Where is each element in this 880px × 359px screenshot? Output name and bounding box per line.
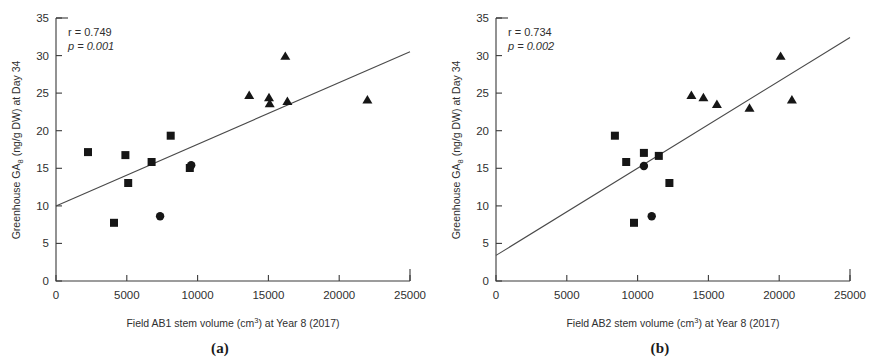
data-points-circle <box>640 162 656 221</box>
x-tick-label: 15000 <box>252 289 284 301</box>
y-tick-label: 30 <box>476 50 489 62</box>
panel-a-y-ticks <box>56 18 62 281</box>
p-value: p = 0.001 <box>67 40 114 52</box>
panel-a-y-tick-labels: 0 5 10 15 20 25 30 35 <box>36 12 49 287</box>
axis-lines <box>496 18 850 281</box>
svg-text:Field AB2 stem volume (cm3) at: Field AB2 stem volume (cm3) at Year 8 (2… <box>566 316 779 329</box>
panel-b-caption: (b) <box>440 340 880 357</box>
panel-a-plot: 0 5 10 15 20 25 30 35 0 5000 10000 15000… <box>0 0 440 359</box>
correlation-value: r = 0.749 <box>68 26 112 38</box>
panel-b-axes <box>496 18 850 281</box>
y-tick-label: 5 <box>483 237 489 249</box>
y-axis-title-suffix: (ng/g DW) at Day 34 <box>450 61 462 160</box>
y-tick-label: 10 <box>36 200 49 212</box>
x-tick-label: 0 <box>53 289 59 301</box>
panel-b-y-ticks <box>496 18 502 281</box>
x-axis-title-prefix: Field AB1 stem volume (cm <box>126 317 254 329</box>
panel-b-x-axis-title: Field AB2 stem volume (cm3) at Year 8 (2… <box>566 316 779 329</box>
y-tick-label: 35 <box>476 12 489 24</box>
panel-b-plot: 0 5 10 15 20 25 30 35 0 5000 10000 15000… <box>440 0 880 359</box>
x-axis-title-prefix: Field AB2 stem volume (cm <box>566 317 694 329</box>
x-tick-label: 20000 <box>323 289 355 301</box>
panel-a-x-axis-title: Field AB1 stem volume (cm3) at Year 8 (2… <box>126 316 339 329</box>
panel-b-x-ticks <box>496 275 850 281</box>
panel-a-y-axis-title: Greenhouse GA8 (ng/g DW) at Day 34 <box>10 61 25 240</box>
p-value: p = 0.002 <box>507 40 554 52</box>
panel-b: 0 5 10 15 20 25 30 35 0 5000 10000 15000… <box>440 0 880 359</box>
y-tick-label: 0 <box>43 275 49 287</box>
scatter-figure: 0 5 10 15 20 25 30 35 0 5000 10000 15000… <box>0 0 880 359</box>
y-tick-label: 15 <box>476 162 489 174</box>
y-axis-title-prefix: Greenhouse GA <box>10 163 22 239</box>
panel-b-y-axis-title: Greenhouse GA8 (ng/g DW) at Day 34 <box>450 61 465 240</box>
x-tick-label: 10000 <box>622 289 654 301</box>
x-axis-title-suffix: ) at Year 8 (2017) <box>258 317 339 329</box>
y-axis-title-prefix: Greenhouse GA <box>450 163 462 239</box>
y-axis-title-suffix: (ng/g DW) at Day 34 <box>10 61 22 160</box>
y-tick-label: 10 <box>476 200 489 212</box>
panel-b-stats: r = 0.734 p = 0.002 <box>507 26 554 52</box>
y-tick-label: 5 <box>43 237 49 249</box>
x-tick-label: 25000 <box>394 289 426 301</box>
panel-a-x-ticks <box>56 275 410 281</box>
x-tick-label: 5000 <box>554 289 580 301</box>
panel-b-x-tick-labels: 0 5000 10000 15000 20000 25000 <box>493 289 866 301</box>
panel-a: 0 5 10 15 20 25 30 35 0 5000 10000 15000… <box>0 0 440 359</box>
x-tick-label: 25000 <box>834 289 866 301</box>
regression-line <box>56 52 410 206</box>
regression-line <box>496 38 850 256</box>
y-tick-label: 20 <box>476 125 489 137</box>
x-tick-label: 10000 <box>182 289 214 301</box>
svg-text:Greenhouse GA8 (ng/g DW) at Da: Greenhouse GA8 (ng/g DW) at Day 34 <box>450 61 465 240</box>
x-axis-title-suffix: ) at Year 8 (2017) <box>698 317 779 329</box>
panel-b-y-tick-labels: 0 5 10 15 20 25 30 35 <box>476 12 489 287</box>
correlation-value: r = 0.734 <box>508 26 552 38</box>
data-points-triangle <box>244 51 372 107</box>
panel-a-x-tick-labels: 0 5000 10000 15000 20000 25000 <box>53 289 426 301</box>
y-tick-label: 30 <box>36 50 49 62</box>
svg-text:Field AB1 stem volume (cm3) at: Field AB1 stem volume (cm3) at Year 8 (2… <box>126 316 339 329</box>
panel-a-axes <box>56 18 410 281</box>
y-tick-label: 0 <box>483 275 489 287</box>
y-tick-label: 25 <box>476 87 489 99</box>
x-tick-label: 15000 <box>692 289 724 301</box>
x-tick-label: 0 <box>493 289 499 301</box>
axis-lines <box>56 18 410 281</box>
x-tick-label: 5000 <box>114 289 140 301</box>
y-tick-label: 15 <box>36 162 49 174</box>
y-tick-label: 20 <box>36 125 49 137</box>
data-points-triangle <box>686 51 797 111</box>
x-tick-label: 20000 <box>763 289 795 301</box>
panel-a-stats: r = 0.749 p = 0.001 <box>67 26 114 52</box>
data-points-square <box>84 132 194 227</box>
panel-a-caption: (a) <box>0 340 440 357</box>
y-tick-label: 35 <box>36 12 49 24</box>
svg-text:Greenhouse GA8 (ng/g DW) at Da: Greenhouse GA8 (ng/g DW) at Day 34 <box>10 61 25 240</box>
y-tick-label: 25 <box>36 87 49 99</box>
